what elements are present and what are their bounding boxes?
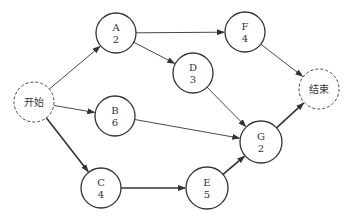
activity-name: E	[203, 177, 210, 188]
edge-E-to-G	[223, 156, 244, 174]
activity-circle	[173, 53, 213, 93]
activity-circle	[186, 167, 228, 209]
node-E: E5	[186, 167, 228, 209]
edge-start-to-C	[46, 118, 88, 172]
activity-name: B	[111, 105, 118, 116]
activity-circle	[95, 96, 135, 136]
edge-A-to-D	[134, 42, 175, 63]
network-diagram: 开始A2F4D3结束B6G2C4E5	[0, 0, 351, 220]
activity-duration: 3	[190, 74, 196, 85]
edge-start-to-B	[54, 105, 95, 112]
activity-duration: 4	[242, 33, 248, 44]
activity-duration: 2	[113, 34, 119, 45]
activity-duration: 6	[112, 117, 118, 128]
node-D: D3	[173, 53, 213, 93]
edge-D-to-G	[207, 87, 246, 126]
node-G: G2	[240, 121, 282, 163]
activity-name: A	[111, 22, 120, 33]
activity-duration: 2	[258, 143, 264, 154]
node-B: B6	[95, 96, 135, 136]
edge-A-to-F	[136, 32, 224, 33]
activity-circle	[225, 12, 265, 52]
activity-duration: 5	[204, 189, 210, 200]
activity-name: G	[257, 131, 265, 142]
activity-circle	[96, 13, 136, 53]
activity-name: C	[97, 177, 105, 188]
edge-B-to-G	[135, 120, 240, 139]
edge-F-to-end	[261, 44, 303, 76]
activity-circle	[240, 121, 282, 163]
node-label: 开始	[24, 96, 44, 108]
node-F: F4	[225, 12, 265, 52]
activity-circle	[81, 168, 121, 208]
node-start: 开始	[14, 82, 54, 122]
activity-duration: 4	[98, 189, 104, 200]
node-end: 结束	[299, 69, 339, 109]
node-label: 结束	[309, 83, 329, 95]
node-C: C4	[81, 168, 121, 208]
edges-layer	[46, 32, 303, 188]
activity-name: F	[242, 21, 249, 32]
edge-G-to-end	[277, 103, 304, 128]
nodes-layer: 开始A2F4D3结束B6G2C4E5	[14, 12, 339, 209]
node-A: A2	[96, 13, 136, 53]
activity-name: D	[189, 62, 197, 73]
edge-start-to-A	[49, 47, 100, 90]
